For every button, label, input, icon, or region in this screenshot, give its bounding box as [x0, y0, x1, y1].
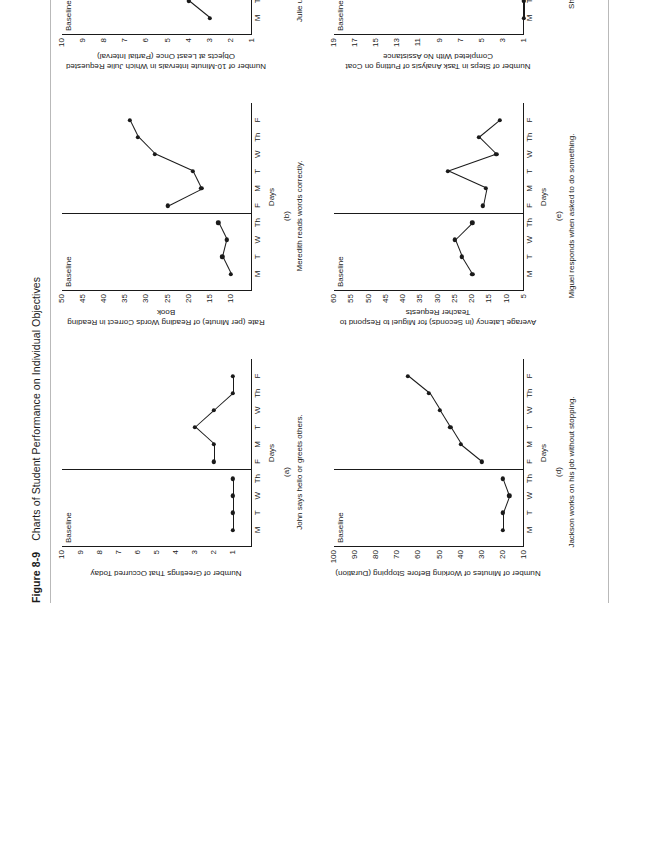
- y-tick-label: 10: [520, 550, 528, 559]
- y-tick-label: 15: [206, 294, 214, 303]
- caption-text: John says hello or greets others.: [295, 414, 304, 530]
- x-tick-label: W: [254, 407, 262, 415]
- data-point: [224, 238, 228, 242]
- data-point: [212, 408, 216, 412]
- y-tick-label: 9: [436, 38, 444, 42]
- x-axis-labels-a: MTWThFMTWThF: [254, 359, 266, 547]
- x-tick-label: Th: [254, 389, 262, 398]
- x-tick-label: M: [254, 441, 262, 448]
- x-tick-label: M: [254, 15, 262, 22]
- y-tick-label: 35: [416, 294, 424, 303]
- y-tick-label: 4: [172, 550, 180, 554]
- y-tick-label: 35: [121, 294, 129, 303]
- data-point: [494, 152, 498, 156]
- x-tick-label: M: [526, 185, 534, 192]
- data-point: [498, 118, 502, 122]
- phase-change-line: [334, 213, 524, 214]
- plot-area-c: Baseline: [62, 0, 252, 35]
- y-tick-label: 1: [248, 38, 256, 42]
- x-tick-label: T: [254, 254, 262, 259]
- y-tick-label: 1: [229, 550, 237, 554]
- x-tick-label: W: [526, 492, 534, 500]
- x-tick-label: T: [254, 425, 262, 430]
- y-tick-label: 6: [134, 550, 142, 554]
- phase-change-line: [334, 469, 524, 470]
- x-tick-label: F: [254, 118, 262, 123]
- x-tick-label: W: [526, 151, 534, 159]
- data-point: [446, 169, 450, 173]
- y-tick-label: 10: [227, 294, 235, 303]
- x-tick-label: Th: [526, 218, 534, 227]
- y-tick-label: 55: [347, 294, 355, 303]
- y-tick-label: 2: [210, 550, 218, 554]
- data-point: [165, 203, 169, 207]
- baseline-label: Baseline: [65, 0, 73, 31]
- y-tick-label: 15: [485, 294, 493, 303]
- data-line-segment: [503, 496, 510, 513]
- x-tick-label: M: [526, 15, 534, 22]
- x-tick-label: Th: [526, 133, 534, 142]
- x-tick-label: T: [254, 169, 262, 174]
- y-tick-label: 25: [451, 294, 459, 303]
- x-axis-labels-f: MTWThFMTWThF: [526, 0, 538, 35]
- data-point: [501, 511, 505, 515]
- data-line-segment: [448, 154, 497, 172]
- y-tick-label: 20: [185, 294, 193, 303]
- y-tick-label: 5: [153, 550, 161, 554]
- y-tick-label: 50: [365, 294, 373, 303]
- x-tick-label: M: [526, 441, 534, 448]
- data-point: [231, 476, 235, 480]
- y-tick-label: 17: [351, 38, 359, 47]
- figure-number: Figure 8-9: [30, 552, 42, 603]
- y-tick-label: 19: [330, 38, 338, 47]
- x-axis-line: [251, 103, 252, 291]
- y-tick-label: 15: [372, 38, 380, 47]
- y-axis-ticks-b: 101520253035404550: [62, 291, 252, 317]
- phase-change-line: [62, 469, 252, 470]
- rotated-page-wrapper: Figure 8-9Charts of Student Performance …: [0, 0, 645, 645]
- y-tick-label: 10: [58, 38, 66, 47]
- y-axis-ticks-c: 12345678910: [62, 35, 252, 61]
- x-tick-label: M: [254, 185, 262, 192]
- y-tick-label: 7: [121, 38, 129, 42]
- chart-cell-d: Number of Minutes of Working Before Stop…: [334, 351, 602, 603]
- y-tick-label: 5: [478, 38, 486, 42]
- chart-c: Number of 10-Minute Intervals in Which J…: [62, 0, 270, 91]
- x-axis-line: [251, 0, 252, 35]
- data-line-segment: [448, 171, 486, 189]
- y-tick-label: 13: [393, 38, 401, 47]
- y-tick-label: 20: [468, 294, 476, 303]
- x-tick-label: Th: [254, 474, 262, 483]
- data-point: [507, 494, 511, 498]
- y-tick-label: 3: [206, 38, 214, 42]
- y-axis-ticks-a: 12345678910: [62, 547, 252, 573]
- caption-letter: (a): [282, 351, 292, 593]
- x-axis-line: [523, 359, 524, 547]
- x-tick-label: T: [526, 254, 534, 259]
- y-axis-line: [62, 290, 252, 291]
- x-tick-label: T: [526, 510, 534, 515]
- x-tick-label: F: [254, 459, 262, 464]
- x-tick-label: W: [254, 236, 262, 244]
- chart-cell-e: Average Latency (in Seconds) for Miguel …: [334, 95, 602, 347]
- y-tick-label: 40: [399, 294, 407, 303]
- x-tick-label: W: [254, 151, 262, 159]
- data-line-segment: [214, 393, 234, 411]
- figure-heading: Figure 8-9Charts of Student Performance …: [30, 0, 42, 603]
- y-axis-line: [334, 34, 524, 35]
- x-tick-label: F: [254, 203, 262, 208]
- chart-cell-b: Rate (per Minute) of Reading Words Corre…: [62, 95, 330, 347]
- plot-area-e: Baseline: [334, 103, 524, 291]
- plot-area-b: Baseline: [62, 103, 252, 291]
- figure-title: Charts of Student Performance on Individ…: [30, 277, 42, 541]
- x-axis-line: [251, 359, 252, 547]
- y-tick-label: 11: [414, 38, 422, 46]
- y-tick-label: 9: [77, 550, 85, 554]
- plot-area-f: Baseline: [334, 0, 524, 35]
- data-point: [480, 459, 484, 463]
- caption-text: Miguel responds when asked to do somethi…: [567, 134, 576, 299]
- y-tick-label: 60: [330, 294, 338, 303]
- x-tick-label: Th: [526, 389, 534, 398]
- y-tick-label: 8: [100, 38, 108, 42]
- data-point: [208, 16, 212, 20]
